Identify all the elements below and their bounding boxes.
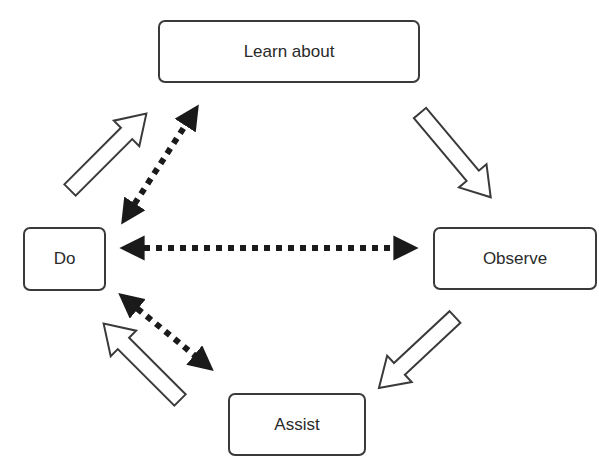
node-assist: Assist xyxy=(228,393,366,456)
hollow-arrow-observe-to-assist xyxy=(367,304,468,401)
learning-cycle-diagram: Learn about Observe Assist Do xyxy=(0,0,599,466)
node-learn-about-label: Learn about xyxy=(244,42,335,62)
node-do: Do xyxy=(23,227,106,291)
node-observe: Observe xyxy=(433,227,597,290)
node-observe-label: Observe xyxy=(483,249,547,269)
hollow-arrow-assist-to-do xyxy=(91,311,193,413)
hollow-arrow-do-to-learn xyxy=(57,101,159,203)
node-do-label: Do xyxy=(54,249,76,269)
hollow-arrow-learn-to-observe xyxy=(406,101,504,208)
node-assist-label: Assist xyxy=(274,415,319,435)
node-learn-about: Learn about xyxy=(158,20,420,83)
